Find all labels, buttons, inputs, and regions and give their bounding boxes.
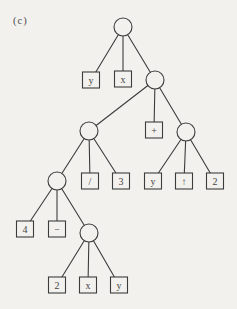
tree-node-circle-op-5 (48, 172, 66, 190)
tree-node-label-leaf-up: ↑ (182, 176, 187, 187)
tree-node-label-leaf-y-2: y (151, 176, 156, 187)
scanned-page: (c) yx+/3y↑24−2xy (0, 0, 237, 309)
tree-node-label-leaf-x-1: x (121, 74, 126, 85)
tree-node-label-leaf-4: 4 (23, 224, 28, 235)
tree-node-circle-op-4 (177, 123, 195, 141)
tree-node-label-leaf-minus: − (54, 224, 60, 235)
tree-node-label-leaf-x-2: x (86, 280, 91, 291)
tree-node-label-leaf-2-a: 2 (213, 176, 218, 187)
expression-tree-diagram: yx+/3y↑24−2xy (0, 0, 237, 309)
tree-node-label-leaf-y-1: y (89, 75, 94, 86)
tree-node-circle-op-3 (80, 122, 98, 140)
tree-node-label-leaf-slash: / (89, 176, 92, 187)
tree-node-circle-op-2 (146, 71, 164, 89)
tree-node-circle-op-6 (80, 224, 98, 242)
tree-node-label-leaf-3: 3 (119, 176, 124, 187)
tree-node-label-leaf-plus: + (151, 125, 157, 136)
tree-node-circle-root (114, 18, 132, 36)
tree-node-label-leaf-y-3: y (117, 280, 122, 291)
tree-node-label-leaf-2-b: 2 (55, 280, 60, 291)
